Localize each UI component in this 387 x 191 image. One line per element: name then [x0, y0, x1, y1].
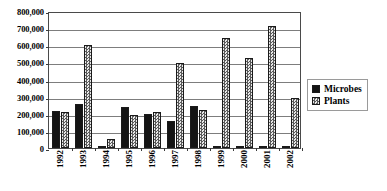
y-axis-tick-label: 0 — [0, 145, 44, 153]
x-axis-tick-label: 1994 — [101, 150, 111, 168]
bar-microbes-1997 — [167, 121, 176, 148]
bar-plants-1996 — [153, 112, 162, 148]
bar-group — [95, 13, 118, 148]
bar-microbes-1992 — [52, 111, 61, 148]
bar-group — [164, 13, 187, 148]
x-axis-tick-label: 2002 — [285, 150, 295, 168]
bar-group — [233, 13, 256, 148]
bar-plants-1993 — [84, 45, 93, 148]
legend-label-microbes: Microbes — [324, 84, 362, 94]
solid-black-square-icon — [312, 85, 320, 93]
bar-group — [141, 13, 164, 148]
x-axis-tick-label: 1998 — [193, 150, 203, 168]
x-axis-tick-label: 1997 — [170, 150, 180, 168]
bar-group — [49, 13, 72, 148]
bar-plants-2000 — [245, 58, 254, 148]
x-axis-tick-label: 1996 — [147, 150, 157, 168]
bar-plants-1994 — [107, 139, 116, 148]
legend-label-plants: Plants — [324, 96, 349, 106]
chart-legend: Microbes Plants — [307, 79, 368, 111]
y-axis-tick-label: 500,000 — [0, 59, 44, 67]
plot-area — [48, 12, 301, 149]
x-axis-tick-label: 2000 — [239, 150, 249, 168]
bar-plants-2002 — [291, 98, 300, 148]
y-axis-tick-label: 700,000 — [0, 25, 44, 33]
bar-microbes-2001 — [259, 146, 268, 148]
bar-plants-1995 — [130, 115, 139, 148]
bars-layer — [49, 13, 300, 148]
bar-plants-1992 — [61, 112, 70, 148]
x-axis: 1992199319941995199619971998199920002001… — [48, 150, 301, 191]
bar-plants-1997 — [176, 63, 185, 148]
y-axis-tick-label: 300,000 — [0, 94, 44, 102]
checkered-square-icon — [312, 97, 320, 105]
bar-plants-1998 — [199, 110, 208, 148]
bar-plants-2001 — [268, 26, 277, 148]
y-axis-tick-label: 200,000 — [0, 111, 44, 119]
bar-group — [187, 13, 210, 148]
x-axis-tick-label: 1992 — [55, 150, 65, 168]
bar-group — [279, 13, 302, 148]
bar-group — [210, 13, 233, 148]
y-axis-tick-label: 100,000 — [0, 128, 44, 136]
bar-microbes-1994 — [98, 146, 107, 148]
bar-group — [72, 13, 95, 148]
y-axis-tick-label: 400,000 — [0, 77, 44, 85]
legend-item-plants: Plants — [312, 95, 362, 107]
bar-microbes-1999 — [213, 146, 222, 148]
bar-group — [256, 13, 279, 148]
bar-microbes-1995 — [121, 107, 130, 148]
x-axis-tick-label: 1993 — [78, 150, 88, 168]
y-axis-tick-label: 600,000 — [0, 42, 44, 50]
x-axis-tick-label: 1995 — [124, 150, 134, 168]
x-axis-tick — [302, 148, 303, 151]
bar-microbes-2000 — [236, 146, 245, 148]
y-axis-tick-label: 800,000 — [0, 8, 44, 16]
bar-microbes-1998 — [190, 106, 199, 148]
x-axis-tick-label: 2001 — [262, 150, 272, 168]
x-axis-tick-label: 1999 — [216, 150, 226, 168]
bar-microbes-1993 — [75, 104, 84, 148]
bar-microbes-2002 — [282, 146, 291, 148]
bar-group — [118, 13, 141, 148]
legend-item-microbes: Microbes — [312, 83, 362, 95]
bar-plants-1999 — [222, 38, 231, 148]
bar-microbes-1996 — [144, 114, 153, 148]
y-axis: 0100,000200,000300,000400,000500,000600,… — [0, 0, 47, 191]
bar-chart: 0100,000200,000300,000400,000500,000600,… — [0, 0, 387, 191]
